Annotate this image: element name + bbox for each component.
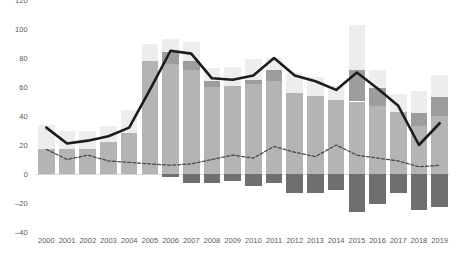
chart-container: 120100806040200–20–40 200020012002200320… xyxy=(0,0,460,254)
x-axis-tick: 2007 xyxy=(183,236,200,245)
x-axis-tick: 2003 xyxy=(100,236,117,245)
x-axis-tick: 2014 xyxy=(328,236,345,245)
y-axis-tick: 80 xyxy=(19,54,28,63)
x-axis-tick: 2013 xyxy=(307,236,324,245)
dashed-line xyxy=(46,145,439,167)
x-axis-tick: 2017 xyxy=(390,236,407,245)
x-axis-tick: 2005 xyxy=(142,236,159,245)
x-axis-tick: 2009 xyxy=(224,236,241,245)
x-axis-tick: 2006 xyxy=(162,236,179,245)
y-axis-tick: 20 xyxy=(19,141,28,150)
x-axis: 2000200120022003200420052006200720082009… xyxy=(36,232,450,254)
x-axis-tick: 2015 xyxy=(349,236,366,245)
x-axis-tick: 2011 xyxy=(266,236,282,245)
x-axis-tick: 2008 xyxy=(204,236,221,245)
y-axis: 120100806040200–20–40 xyxy=(0,0,36,254)
y-axis-tick: 40 xyxy=(19,112,28,121)
x-axis-tick: 2010 xyxy=(245,236,262,245)
x-axis-tick: 2018 xyxy=(411,236,428,245)
y-axis-tick: 120 xyxy=(15,0,28,5)
y-axis-tick: –20 xyxy=(15,199,28,208)
x-axis-tick: 2004 xyxy=(121,236,138,245)
y-axis-tick: 60 xyxy=(19,83,28,92)
y-axis-tick: 0 xyxy=(24,170,28,179)
y-axis-tick: 100 xyxy=(15,25,28,34)
x-axis-tick: 2000 xyxy=(38,236,55,245)
x-axis-tick: 2002 xyxy=(79,236,96,245)
y-axis-tick: –40 xyxy=(15,228,28,237)
x-axis-tick: 2016 xyxy=(369,236,386,245)
x-axis-tick: 2012 xyxy=(286,236,303,245)
x-axis-tick: 2019 xyxy=(431,236,448,245)
solid-line xyxy=(46,51,439,145)
line-overlay xyxy=(36,0,450,232)
x-axis-tick: 2001 xyxy=(59,236,76,245)
